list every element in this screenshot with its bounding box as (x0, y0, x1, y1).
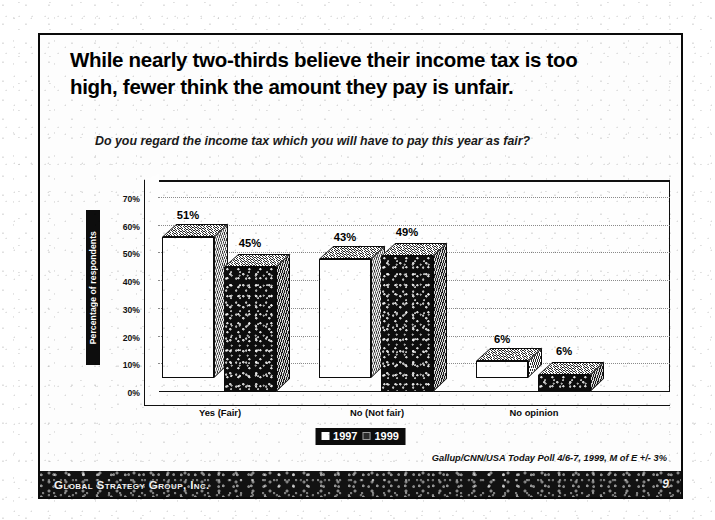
bar-1997-no-opinion[interactable] (476, 361, 528, 378)
bar-1999-no-not-fair-[interactable] (381, 256, 433, 392)
bar-value-label: 49% (396, 226, 418, 238)
y-axis-tick: 20% (123, 333, 140, 343)
bar-face (381, 256, 433, 392)
plot-side-wall (144, 174, 159, 406)
category-label: No opinion (510, 407, 559, 418)
bar-face (319, 259, 371, 378)
source-note: Gallup/CNN/USA Today Poll 4/6-7, 1999, M… (432, 453, 667, 463)
y-axis-tick: 30% (123, 305, 140, 315)
plot-floor (144, 391, 670, 406)
y-axis-tick: 50% (123, 249, 140, 259)
y-axis-tick: 0% (128, 388, 140, 398)
bar-value-label: 43% (334, 231, 356, 243)
y-axis-title-label: Percentage of respondents (88, 231, 98, 344)
bar-face (476, 361, 528, 378)
bar-1999-no-opinion[interactable] (538, 375, 590, 392)
slide-footer: Global Strategy Group, Inc. 9 (40, 471, 681, 497)
category-label: No (Not fair) (350, 407, 404, 418)
y-axis-tick: 10% (123, 360, 140, 370)
slide-title: While nearly two-thirds believe their in… (70, 47, 630, 100)
bar-right-face (433, 243, 447, 392)
legend-label: 1997 (333, 430, 357, 442)
category-label: Yes (Fair) (199, 407, 241, 418)
legend-item-1999[interactable]: 1999 (363, 430, 399, 442)
y-axis-tick: 60% (123, 222, 140, 232)
y-axis-tick: 40% (123, 277, 140, 287)
slide: While nearly two-thirds believe their in… (38, 33, 683, 499)
bar-value-label: 45% (239, 237, 261, 249)
chart-legend[interactable]: 19971999 (315, 428, 406, 445)
bar-face (538, 375, 590, 392)
bar-group: 43%49%No (Not fair) (319, 180, 469, 392)
y-axis-title: Percentage of respondents (86, 210, 100, 365)
bar-1997-no-not-fair-[interactable] (319, 259, 371, 378)
bar-chart: Percentage of respondents 0%10%20%30%40%… (92, 180, 672, 430)
legend-swatch-icon (363, 432, 371, 440)
bar-1997-yes-fair-[interactable] (162, 237, 214, 378)
bar-group: 6%6%No opinion (476, 180, 626, 392)
plot-area: 51%45%Yes (Fair)43%49%No (Not fair)6%6%N… (144, 180, 672, 430)
y-axis-tick: 70% (123, 194, 140, 204)
legend-swatch-icon (321, 432, 329, 440)
bar-value-label: 51% (177, 209, 199, 221)
bar-value-label: 6% (494, 333, 510, 345)
y-axis-ticks: 0%10%20%30%40%50%60%70% (106, 180, 140, 430)
bar-right-face (276, 254, 290, 392)
legend-label: 1999 (375, 430, 399, 442)
legend-item-1997[interactable]: 1997 (321, 430, 357, 442)
bar-group: 51%45%Yes (Fair) (162, 180, 312, 392)
bar-1999-yes-fair-[interactable] (224, 267, 276, 392)
page-number: 9 (662, 477, 669, 491)
poll-question: Do you regard the income tax which you w… (95, 133, 555, 151)
company-brand: Global Strategy Group, Inc. (54, 478, 210, 491)
bar-face (224, 267, 276, 392)
bar-value-label: 6% (556, 345, 572, 357)
bar-face (162, 237, 214, 378)
